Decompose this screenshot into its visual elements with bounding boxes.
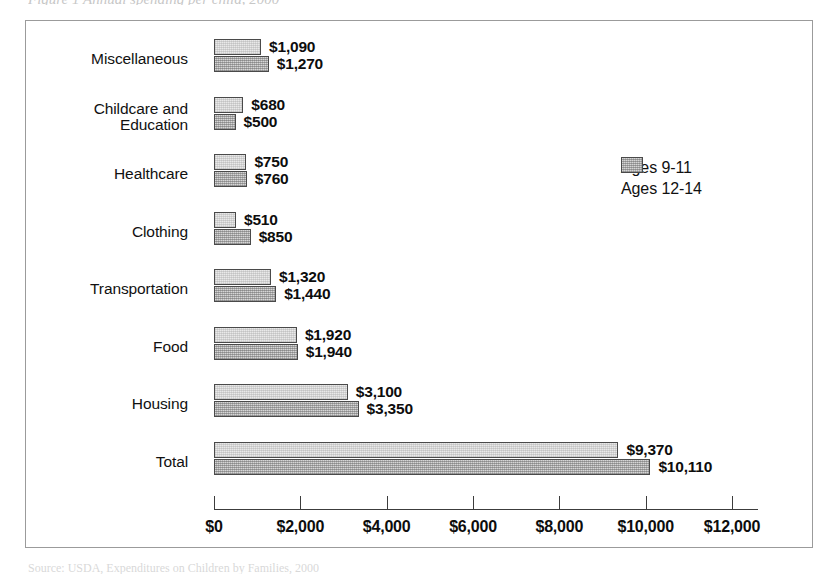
bar-group: Food$1,920$1,940 bbox=[26, 327, 838, 367]
bar-group: Clothing$510$850 bbox=[26, 212, 838, 252]
axis-tick-label: $6,000 bbox=[449, 518, 497, 536]
category-label: Miscellaneous bbox=[26, 51, 188, 67]
bar-ages-9-11 bbox=[214, 269, 271, 285]
bar-value-label: $3,350 bbox=[367, 400, 413, 418]
bar-group: Housing$3,100$3,350 bbox=[26, 384, 838, 424]
bar-group: Transportation$1,320$1,440 bbox=[26, 269, 838, 309]
bar-value-label: $510 bbox=[244, 211, 278, 229]
category-label: Transportation bbox=[26, 281, 188, 297]
category-label: Healthcare bbox=[26, 166, 188, 182]
bar-value-label: $760 bbox=[255, 170, 289, 188]
bar-value-label: $1,320 bbox=[279, 268, 325, 286]
bar-ages-9-11 bbox=[214, 97, 243, 113]
axis-tick bbox=[473, 496, 474, 509]
x-axis-line: $0$2,000$4,000$6,000$8,000$10,000$12,000 bbox=[214, 509, 758, 510]
bar-value-label: $9,370 bbox=[626, 441, 672, 459]
bar-value-label: $1,940 bbox=[306, 343, 352, 361]
bar-value-label: $1,920 bbox=[305, 326, 351, 344]
bar-ages-12-14 bbox=[214, 229, 251, 245]
axis-tick bbox=[300, 496, 301, 509]
axis-tick-label: $0 bbox=[205, 518, 222, 536]
chart-frame: Miscellaneous$1,090$1,270Childcare andEd… bbox=[25, 20, 813, 548]
bar-ages-12-14 bbox=[214, 286, 276, 302]
bar-ages-12-14 bbox=[214, 401, 359, 417]
bar-value-label: $1,270 bbox=[277, 55, 323, 73]
bar-group: Childcare andEducation$680$500 bbox=[26, 97, 838, 137]
bar-value-label: $750 bbox=[254, 153, 288, 171]
figure-source-caption: Source: USDA, Expenditures on Children b… bbox=[28, 561, 319, 574]
bar-ages-9-11 bbox=[214, 442, 618, 458]
bar-ages-12-14 bbox=[214, 171, 247, 187]
legend-item-ages-12-14: Ages 12-14 bbox=[621, 178, 702, 199]
axis-tick-label: $8,000 bbox=[535, 518, 583, 536]
chart-legend: Ages 9-11 Ages 12-14 bbox=[621, 157, 702, 199]
bar-ages-9-11 bbox=[214, 212, 236, 228]
legend-label-ages-12-14: Ages 12-14 bbox=[621, 180, 702, 198]
legend-swatch-dark-icon bbox=[621, 157, 643, 173]
bar-value-label: $850 bbox=[259, 228, 293, 246]
bar-group: Miscellaneous$1,090$1,270 bbox=[26, 39, 838, 79]
category-label: Total bbox=[26, 454, 188, 470]
bar-group: Total$9,370$10,110 bbox=[26, 442, 838, 482]
bar-value-label: $1,440 bbox=[284, 285, 330, 303]
bar-group: Healthcare$750$760 bbox=[26, 154, 838, 194]
bar-ages-9-11 bbox=[214, 384, 348, 400]
category-label: Housing bbox=[26, 396, 188, 412]
axis-tick bbox=[646, 496, 647, 509]
axis-tick-label: $12,000 bbox=[704, 518, 760, 536]
bar-ages-12-14 bbox=[214, 56, 269, 72]
axis-tick bbox=[732, 496, 733, 509]
bar-ages-12-14 bbox=[214, 459, 650, 475]
bar-value-label: $10,110 bbox=[658, 458, 712, 476]
axis-tick-label: $10,000 bbox=[617, 518, 673, 536]
axis-tick bbox=[214, 496, 215, 509]
category-label: Childcare andEducation bbox=[26, 100, 188, 133]
axis-tick bbox=[559, 496, 560, 509]
figure-top-caption: Figure 1 Annual spending per child, 2000 bbox=[28, 0, 279, 5]
bar-value-label: $500 bbox=[244, 113, 278, 131]
plot-area: Miscellaneous$1,090$1,270Childcare andEd… bbox=[26, 21, 812, 547]
bar-value-label: $1,090 bbox=[269, 38, 315, 56]
category-label: Food bbox=[26, 339, 188, 355]
bar-ages-9-11 bbox=[214, 39, 261, 55]
bar-value-label: $680 bbox=[251, 96, 285, 114]
axis-tick-label: $2,000 bbox=[276, 518, 324, 536]
category-label: Clothing bbox=[26, 224, 188, 240]
bar-ages-12-14 bbox=[214, 344, 298, 360]
bar-value-label: $3,100 bbox=[356, 383, 402, 401]
axis-tick bbox=[387, 496, 388, 509]
axis-tick-label: $4,000 bbox=[363, 518, 411, 536]
bar-ages-9-11 bbox=[214, 154, 246, 170]
bar-ages-12-14 bbox=[214, 114, 236, 130]
bar-ages-9-11 bbox=[214, 327, 297, 343]
